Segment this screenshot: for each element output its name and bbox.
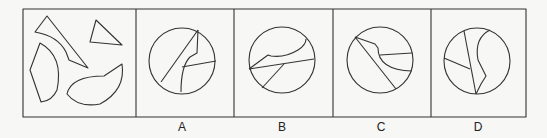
option-label-b[interactable]: B xyxy=(272,120,292,134)
piece-crescent xyxy=(67,64,123,105)
frame xyxy=(23,9,526,117)
option-c-figure xyxy=(347,27,413,93)
option-a-figure xyxy=(149,28,216,94)
option-d-figure xyxy=(444,28,510,94)
piece-triangle-long xyxy=(35,16,88,68)
puzzle-figure xyxy=(0,0,547,138)
option-label-c[interactable]: C xyxy=(371,120,391,134)
option-label-a[interactable]: A xyxy=(172,120,192,134)
question-pieces xyxy=(30,16,123,105)
option-label-d[interactable]: D xyxy=(468,120,488,134)
piece-triangle-small xyxy=(90,20,122,45)
piece-lens xyxy=(30,43,59,102)
option-b-figure xyxy=(249,27,315,93)
